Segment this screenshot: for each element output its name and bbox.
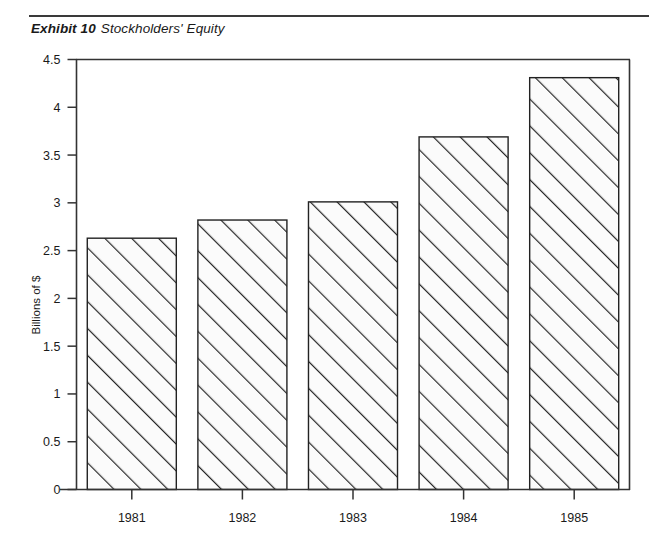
y-tick-label: 3 <box>54 196 61 210</box>
x-tick-label-1983: 1983 <box>339 511 367 525</box>
exhibit-page: Exhibit 10Stockholders' Equity 00.511.52… <box>0 0 661 552</box>
y-tick-label: 2 <box>54 292 61 306</box>
y-tick-label: 3.5 <box>43 149 60 163</box>
y-tick-label: 4.5 <box>43 53 60 67</box>
y-tick-label: 1.5 <box>43 340 60 354</box>
x-tick-label-1981: 1981 <box>118 511 146 525</box>
y-tick-label: 1 <box>54 387 61 401</box>
y-tick-label: 2.5 <box>43 244 60 258</box>
bar-1981 <box>87 238 176 489</box>
x-tick-label-1984: 1984 <box>450 511 478 525</box>
y-tick-label: 0.5 <box>43 435 60 449</box>
y-tick-label: 0 <box>54 483 61 497</box>
chart-svg: 00.511.522.533.544.5 1981198219831984198… <box>0 0 661 552</box>
y-axis-ticks: 00.511.522.533.544.5 <box>43 53 76 497</box>
bar-1984 <box>419 137 508 490</box>
x-tick-label-1982: 1982 <box>228 511 256 525</box>
bars-group <box>87 78 618 490</box>
bar-1982 <box>198 220 287 489</box>
x-axis-ticks: 19811982198319841985 <box>118 490 588 525</box>
bar-chart: 00.511.522.533.544.5 1981198219831984198… <box>0 0 661 552</box>
bar-1983 <box>308 202 397 490</box>
x-tick-label-1985: 1985 <box>560 511 588 525</box>
y-axis-title: Billions of $ <box>30 275 42 334</box>
y-tick-label: 4 <box>54 101 61 115</box>
bar-1985 <box>530 78 619 490</box>
